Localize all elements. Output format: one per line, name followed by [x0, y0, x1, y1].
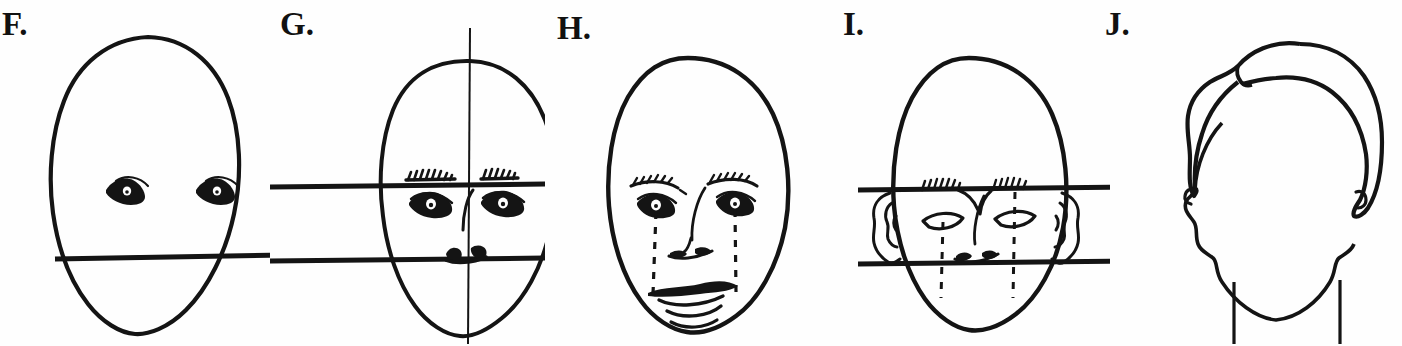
panel-h-art — [545, 0, 830, 346]
left-eyebrow — [631, 175, 686, 194]
face-outline — [1185, 123, 1354, 320]
left-eye — [106, 177, 148, 205]
dashed-alignment-line-right — [735, 210, 736, 292]
panel-g-art — [270, 0, 545, 346]
dashed-alignment-line-left — [653, 212, 656, 294]
mouth-guide-line — [55, 255, 270, 259]
lower-lip — [659, 296, 723, 316]
chin-crease — [671, 320, 717, 327]
right-eye — [481, 191, 524, 218]
upper-lip — [648, 281, 738, 297]
panel-g: G. — [270, 0, 545, 346]
nose — [669, 188, 712, 258]
left-eyebrow — [922, 179, 978, 210]
panel-i: I. — [830, 0, 1110, 346]
right-eyebrow — [980, 178, 1026, 214]
right-eye — [196, 177, 238, 205]
panel-f-art — [0, 0, 270, 346]
panel-f: F. — [0, 0, 270, 346]
dashed-alignment-line-right — [1013, 192, 1015, 298]
panel-h: H. — [545, 0, 830, 346]
figure-sheet: F. G. — [0, 0, 1402, 346]
mouth-guide-line — [270, 258, 545, 261]
brow-guide-line — [858, 187, 1110, 190]
left-eyebrow — [406, 170, 455, 180]
face-oval — [893, 58, 1066, 330]
right-eyebrow — [708, 173, 757, 186]
panel-j-art — [1110, 0, 1402, 346]
left-eye — [409, 192, 452, 219]
hair-mass — [1187, 43, 1300, 196]
panel-i-art — [830, 0, 1110, 346]
brow-guide-line — [270, 184, 545, 187]
dashed-alignment-line-left — [941, 222, 943, 298]
right-eyebrow — [481, 169, 518, 179]
panel-j: J. — [1110, 0, 1402, 346]
